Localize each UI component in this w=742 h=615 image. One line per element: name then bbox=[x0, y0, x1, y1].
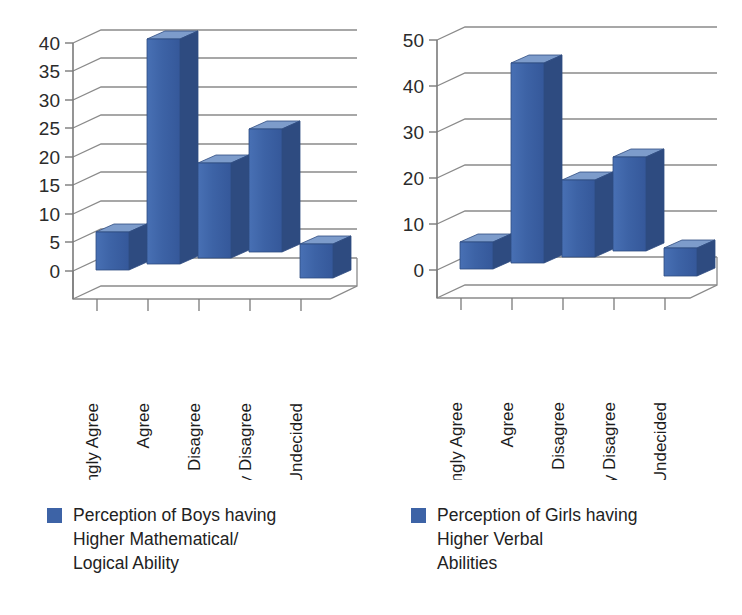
left-x-ticks bbox=[97, 299, 301, 311]
y-tick-label: 50 bbox=[403, 30, 424, 51]
category-label-strongly-agree: Strongly Agree bbox=[83, 403, 102, 480]
category-label-agree: Agree bbox=[498, 402, 517, 447]
category-label-undecided: Undecided bbox=[287, 403, 306, 480]
bar-strongly-disagree[interactable] bbox=[249, 121, 300, 252]
y-tick-label: 30 bbox=[39, 90, 60, 111]
legend-swatch-icon bbox=[411, 508, 426, 523]
right-category-labels: Strongly Agree Agree Disagree Strongly D… bbox=[447, 402, 670, 480]
legend-row: Perception of Boys having Higher Mathema… bbox=[47, 503, 418, 575]
bar-strongly-agree[interactable] bbox=[96, 224, 147, 270]
bar-strongly-disagree[interactable] bbox=[613, 149, 664, 251]
bar-undecided[interactable] bbox=[664, 240, 715, 276]
category-label-agree: Agree bbox=[134, 403, 153, 448]
y-tick-label: 20 bbox=[403, 168, 424, 189]
y-tick-label: 25 bbox=[39, 118, 60, 139]
y-tick-label: 0 bbox=[413, 260, 424, 281]
left-y-tick-labels: 40 35 30 25 20 15 10 5 0 bbox=[39, 33, 60, 282]
y-tick-label: 15 bbox=[39, 175, 60, 196]
y-tick-label: 40 bbox=[39, 33, 60, 54]
y-tick-label: 35 bbox=[39, 61, 60, 82]
right-x-ticks bbox=[461, 298, 665, 310]
legend-row: Perception of Girls having Higher Verbal… bbox=[411, 503, 742, 575]
left-chart-panel: 40 35 30 25 20 15 10 5 0 bbox=[0, 0, 371, 615]
right-chart-panel: 50 40 30 20 10 0 bbox=[371, 0, 742, 615]
chart-page: 40 35 30 25 20 15 10 5 0 bbox=[0, 0, 742, 615]
legend-swatch-icon bbox=[47, 508, 62, 523]
right-chart-plot: 50 40 30 20 10 0 bbox=[371, 0, 742, 480]
category-label-strongly-disagree: Strongly Disagree bbox=[600, 402, 619, 480]
right-y-ticks bbox=[429, 40, 437, 270]
y-tick-label: 30 bbox=[403, 122, 424, 143]
legend-label-girls: Perception of Girls having Higher Verbal… bbox=[437, 503, 637, 575]
bar-undecided[interactable] bbox=[300, 236, 351, 278]
bar-strongly-agree[interactable] bbox=[460, 234, 511, 269]
right-y-tick-labels: 50 40 30 20 10 0 bbox=[403, 30, 424, 281]
bar-agree[interactable] bbox=[511, 55, 562, 263]
category-label-strongly-agree: Strongly Agree bbox=[447, 402, 466, 480]
left-legend: Perception of Boys having Higher Mathema… bbox=[47, 503, 418, 575]
category-label-disagree: Disagree bbox=[549, 402, 568, 470]
bar-agree[interactable] bbox=[147, 31, 198, 264]
right-chart-svg: 50 40 30 20 10 0 bbox=[371, 0, 742, 480]
y-tick-label: 10 bbox=[403, 214, 424, 235]
bar-disagree[interactable] bbox=[562, 172, 613, 257]
category-label-disagree: Disagree bbox=[185, 403, 204, 471]
bar-disagree[interactable] bbox=[198, 155, 249, 258]
left-chart-svg: 40 35 30 25 20 15 10 5 0 bbox=[0, 0, 371, 480]
category-label-strongly-disagree: Strongly Disagree bbox=[236, 403, 255, 480]
y-tick-label: 20 bbox=[39, 147, 60, 168]
legend-label-boys: Perception of Boys having Higher Mathema… bbox=[73, 503, 276, 575]
y-tick-label: 40 bbox=[403, 76, 424, 97]
category-label-undecided: Undecided bbox=[651, 402, 670, 480]
y-tick-label: 10 bbox=[39, 204, 60, 225]
right-legend: Perception of Girls having Higher Verbal… bbox=[411, 503, 742, 575]
left-y-ticks bbox=[65, 43, 73, 271]
y-tick-label: 0 bbox=[49, 261, 60, 282]
y-tick-label: 5 bbox=[49, 232, 60, 253]
left-chart-plot: 40 35 30 25 20 15 10 5 0 bbox=[0, 0, 371, 480]
left-category-labels: Strongly Agree Agree Disagree Strongly D… bbox=[83, 403, 306, 480]
